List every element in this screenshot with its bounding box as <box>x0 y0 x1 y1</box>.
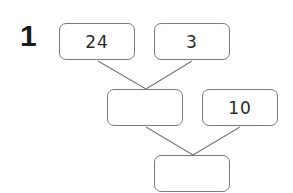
answer-box-middle[interactable] <box>107 89 183 126</box>
box-top-right: 3 <box>154 23 230 60</box>
answer-box-bottom[interactable] <box>154 155 230 192</box>
connector-3-to-middle <box>146 61 192 89</box>
box-top-left: 24 <box>59 23 135 60</box>
box-middle-right: 10 <box>202 89 278 126</box>
connector-10-to-bottom <box>193 127 240 155</box>
connector-middle-to-bottom <box>146 127 193 155</box>
connector-24-to-middle <box>98 61 146 89</box>
question-number: 1 <box>20 20 37 52</box>
